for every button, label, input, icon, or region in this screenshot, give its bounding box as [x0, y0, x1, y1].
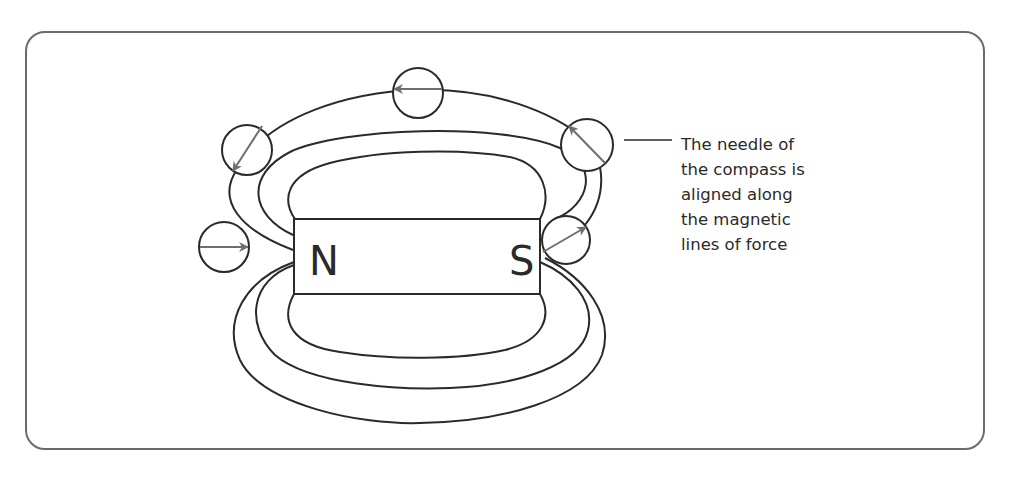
caption-line: the magnetic: [681, 207, 881, 232]
caption-line: aligned along: [681, 182, 881, 207]
compass-ring-icon: [542, 216, 590, 264]
compass-top: [393, 68, 443, 118]
compass-upper-left: [222, 125, 272, 175]
south-pole-label: S: [509, 238, 534, 284]
caption: The needle of the compass is aligned alo…: [681, 132, 881, 257]
field-line-bottom-inner: [288, 294, 545, 358]
compass-left: [199, 222, 249, 272]
compass-upper-right: [561, 119, 613, 171]
north-pole-label: N: [309, 238, 339, 284]
caption-line: The needle of: [681, 132, 881, 157]
bar-magnet: N S: [294, 219, 540, 294]
compass-ring-icon: [393, 68, 443, 118]
field-line-top-inner: [288, 151, 545, 219]
caption-line: lines of force: [681, 232, 881, 257]
caption-line: the compass is: [681, 157, 881, 182]
compass-right: [542, 216, 590, 264]
